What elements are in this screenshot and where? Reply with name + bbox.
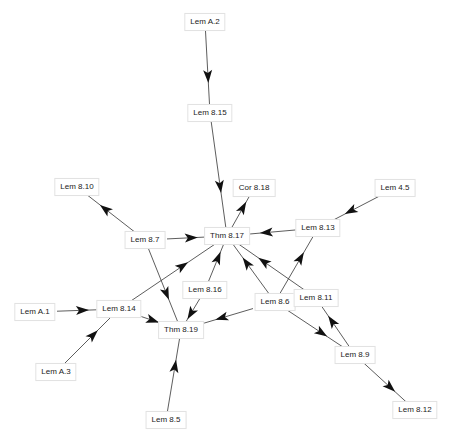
node-lem813[interactable]: Lem 8.13 [295,219,340,237]
node-cor818[interactable]: Cor 8.18 [233,179,276,197]
node-lemA3[interactable]: Lem A.3 [35,363,76,381]
edge-lem816-to-thm819 [186,298,200,322]
arrowhead-icon [187,306,198,319]
node-lemA1[interactable]: Lem A.1 [14,303,55,321]
edge-lem87-to-thm817 [167,234,205,243]
edge-lem86-to-thm819 [203,309,253,324]
edge-lem811-to-thm817 [238,244,304,290]
edge-lem815-to-thm817 [211,121,226,228]
node-thm817[interactable]: Thm 8.17 [204,227,250,245]
edge-lem87-to-thm819 [148,248,178,322]
edge-lem814-to-thm819 [141,314,159,323]
edge-lem87-to-lem810 [87,195,134,232]
arrowhead-icon [293,252,303,266]
edge-lem86-to-lem813 [280,236,314,294]
arrowhead-icon [258,258,271,269]
edge-lem45-to-lem813 [333,196,379,220]
arrowhead-icon [243,258,254,271]
node-lem812[interactable]: Lem 8.12 [392,401,437,419]
dependency-graph-canvas: Lem A.2Lem 8.15Cor 8.18Lem 8.10Lem 4.5Le… [0,0,455,447]
edge-lem86-to-lem89 [287,310,343,347]
edge-lemA2-to-lem815 [203,30,212,105]
node-lem815[interactable]: Lem 8.15 [187,104,232,122]
edge-lem86-to-thm817 [233,244,269,294]
arrowhead-icon [345,204,359,214]
edge-lem89-to-lem811 [321,306,349,347]
node-lem89[interactable]: Lem 8.9 [335,346,376,364]
edge-lem813-to-thm817 [249,227,296,236]
node-lem86[interactable]: Lem 8.6 [255,293,296,311]
node-lem45[interactable]: Lem 4.5 [375,179,416,197]
edge-thm817-to-cor818 [232,196,250,228]
node-lem816[interactable]: Lem 8.16 [182,281,227,299]
arrowhead-icon [236,202,246,216]
edge-lem85-to-thm819 [167,338,179,412]
arrowhead-icon [328,316,339,329]
edge-lemA1-to-lem814 [57,306,97,315]
node-lemA2[interactable]: Lem A.2 [184,13,225,31]
edge-lem816-to-thm817 [208,244,223,282]
arrowhead-icon [175,262,188,273]
node-thm819[interactable]: Thm 8.19 [158,321,204,339]
arrowhead-icon [100,205,113,217]
arrowhead-icon [314,326,327,337]
node-lem814[interactable]: Lem 8.14 [96,300,141,318]
node-lem810[interactable]: Lem 8.10 [54,178,99,196]
edge-lem89-to-lem812 [364,363,407,402]
node-lem87[interactable]: Lem 8.7 [125,231,166,249]
node-lem85[interactable]: Lem 8.5 [146,411,187,429]
node-lem811[interactable]: Lem 8.11 [294,289,339,307]
edge-lemA3-to-lem814 [64,317,111,364]
